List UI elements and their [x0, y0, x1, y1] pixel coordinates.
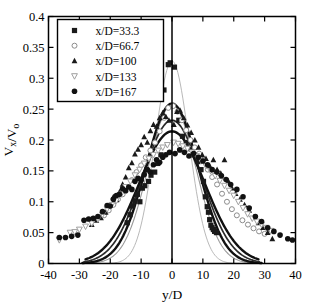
legend-item-label: x/D=167 — [96, 86, 137, 98]
y-tick-label: 0.4 — [29, 10, 45, 24]
y-tick-label: 0.35 — [23, 41, 45, 55]
y-tick-label: 0.2 — [29, 134, 45, 148]
scatter-plot: -40-30-20-1001020304000.050.10.150.20.25… — [0, 0, 311, 308]
x-axis-label: y/D — [162, 287, 183, 302]
y-tick-label: 0.1 — [29, 195, 45, 209]
x-tick-label: -10 — [133, 268, 150, 282]
y-tick-label: 0.25 — [23, 103, 45, 117]
y-axis-label: Vx/Vo — [1, 123, 21, 156]
y-tick-label: 0.05 — [23, 226, 45, 240]
figure-container: -40-30-20-1001020304000.050.10.150.20.25… — [0, 0, 311, 308]
x-tick-label: 0 — [169, 268, 175, 282]
y-tick-label: 0.15 — [23, 164, 45, 178]
y-tick-label: 0 — [38, 257, 44, 271]
x-tick-label: -20 — [102, 268, 119, 282]
legend-item-label: x/D=33.3 — [96, 25, 140, 37]
legend: x/D=33.3x/D=66.7x/D=100x/D=133x/D=167 — [58, 20, 164, 102]
x-tick-label: 20 — [228, 268, 241, 282]
x-tick-label: 40 — [289, 268, 302, 282]
legend-item-label: x/D=133 — [96, 71, 137, 83]
x-tick-label: 10 — [197, 268, 210, 282]
x-tick-label: -30 — [71, 268, 88, 282]
legend-item-label: x/D=66.7 — [96, 40, 140, 52]
y-tick-label: 0.3 — [29, 72, 45, 86]
legend-item-label: x/D=100 — [96, 55, 137, 67]
x-tick-label: 30 — [258, 268, 271, 282]
